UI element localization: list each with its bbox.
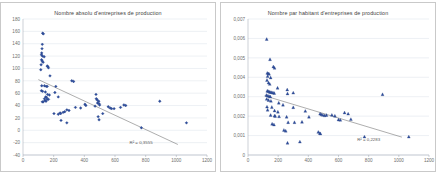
data-point: [94, 105, 97, 108]
data-point: [41, 47, 44, 50]
data-point: [276, 110, 279, 113]
x-axis-tick-label: 0: [247, 158, 250, 163]
trendline: [38, 80, 178, 145]
data-point: [278, 115, 281, 118]
r-squared-label: R² = 0,3555: [130, 140, 154, 145]
data-point: [41, 43, 44, 46]
x-axis-tick-label: 1000: [394, 158, 405, 163]
data-point: [277, 101, 280, 104]
data-point: [301, 120, 304, 123]
data-point: [285, 115, 288, 118]
x-axis-tick-label: 600: [335, 158, 343, 163]
data-point: [333, 114, 336, 117]
x-axis-tick-label: 200: [274, 158, 282, 163]
data-point: [185, 121, 188, 124]
x-axis-tick-label: 800: [142, 158, 150, 163]
y-axis-tick-label: 0,003: [234, 94, 246, 99]
data-point: [39, 68, 42, 71]
data-point: [304, 109, 307, 112]
data-point: [60, 119, 63, 122]
data-point-group: [265, 38, 410, 145]
data-point: [40, 84, 43, 87]
data-point: [266, 105, 269, 108]
data-point: [113, 107, 116, 110]
r-squared-label: R² = 0,2283: [357, 137, 381, 142]
data-point: [95, 93, 98, 96]
y-axis-tick-label: 40: [15, 103, 21, 108]
data-point: [292, 106, 295, 109]
chart-panel-per-capita: Nombre par habitant d'entreprises de pro…: [220, 2, 436, 172]
data-point: [74, 106, 77, 109]
x-axis-tick-label: 1200: [202, 158, 213, 163]
data-point: [53, 91, 56, 94]
data-point: [381, 93, 384, 96]
data-point: [269, 99, 272, 102]
data-point: [347, 112, 350, 115]
y-axis-tick-label: 0,002: [234, 114, 246, 119]
data-point: [158, 100, 161, 103]
data-point: [101, 112, 104, 115]
data-point: [269, 114, 272, 117]
data-point: [65, 121, 68, 124]
data-point: [266, 108, 269, 111]
data-point: [282, 103, 285, 106]
data-point: [343, 111, 346, 114]
x-axis-tick-label: 600: [111, 158, 119, 163]
data-point: [287, 121, 290, 124]
data-point: [119, 106, 122, 109]
y-axis-tick-label: 120: [12, 54, 20, 59]
data-point: [270, 106, 273, 109]
y-axis-tick-label: 160: [12, 29, 20, 34]
data-point: [273, 109, 276, 112]
y-axis-tick-label: 100: [12, 66, 20, 71]
x-axis-tick-label: 400: [80, 158, 88, 163]
y-axis-tick-label: 60: [15, 91, 21, 96]
data-point: [269, 76, 272, 79]
data-point: [276, 86, 279, 89]
y-axis-tick-label: 0,007: [234, 17, 246, 22]
data-point: [349, 118, 352, 121]
data-point: [298, 140, 301, 143]
data-point: [44, 90, 47, 93]
y-axis-tick-label: -40: [13, 153, 20, 158]
data-point: [53, 112, 56, 115]
chart-plot-per-capita: 00,0010,0020,0030,0040,0050,0060,0070200…: [221, 3, 437, 173]
y-axis-tick-label: 0,004: [234, 75, 246, 80]
data-point: [286, 88, 289, 91]
data-point: [98, 118, 101, 121]
y-axis-tick-label: 0: [242, 153, 245, 158]
data-point: [286, 92, 289, 95]
x-axis-tick-label: 1200: [424, 158, 435, 163]
scatter-chart-pair: Nombre absolu d'entreprises de productio…: [0, 0, 440, 174]
y-axis-tick-label: 20: [15, 116, 21, 121]
chart-plot-absolute: -40-200204060801001201401601800200400600…: [1, 3, 217, 173]
data-point: [266, 79, 269, 82]
data-point: [57, 95, 60, 98]
y-axis-tick-label: 0,001: [234, 133, 246, 138]
data-point: [292, 91, 295, 94]
data-point: [330, 113, 333, 116]
y-axis-tick-label: 180: [12, 17, 20, 22]
data-point: [286, 141, 289, 144]
data-point: [293, 121, 296, 124]
data-point: [40, 63, 43, 66]
x-axis-tick-label: 800: [365, 158, 373, 163]
y-axis-tick-label: 0: [17, 128, 20, 133]
x-axis-tick-label: 400: [304, 158, 312, 163]
y-axis-tick-label: 140: [12, 41, 20, 46]
y-axis-tick-label: 80: [15, 79, 21, 84]
data-point: [97, 115, 100, 118]
x-axis-tick-label: 1000: [171, 158, 182, 163]
data-point: [269, 58, 272, 61]
data-point: [49, 74, 52, 77]
y-axis-tick-label: -20: [13, 140, 20, 145]
x-axis-tick-label: 200: [50, 158, 58, 163]
y-axis-tick-label: 0,005: [234, 56, 246, 61]
data-point: [265, 38, 268, 41]
data-point: [307, 115, 310, 118]
x-axis-tick-label: 0: [22, 158, 25, 163]
chart-panel-absolute: Nombre absolu d'entreprises de productio…: [0, 2, 216, 172]
y-axis-tick-label: 0,006: [234, 36, 246, 41]
data-point: [79, 107, 82, 110]
